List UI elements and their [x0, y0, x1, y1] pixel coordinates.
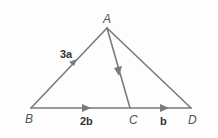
arrow-icon-BA [69, 59, 77, 66]
point-label-B: B [25, 112, 33, 126]
diagram-svg: A B C D 3a 2b b [0, 0, 218, 138]
point-label-C: C [129, 113, 138, 127]
vector-label-2b: 2b [80, 115, 93, 127]
arrow-icon-CD [160, 104, 169, 112]
arrow-icon-BC [82, 104, 91, 112]
vector-label-3a: 3a [60, 48, 73, 60]
vector-triangle-diagram: A B C D 3a 2b b [0, 0, 218, 138]
vector-label-b: b [160, 115, 167, 127]
point-label-A: A [102, 12, 111, 26]
segment-BA [31, 28, 107, 108]
point-label-D: D [188, 113, 197, 127]
